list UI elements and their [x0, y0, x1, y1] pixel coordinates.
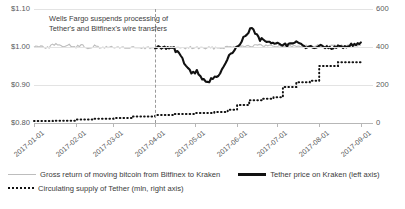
x-axis-tick-8 — [361, 123, 362, 127]
legend-item-tether-price: Tether price on Kraken (left axis) — [238, 170, 379, 179]
y-axis-left-tick-3: $1.10 — [0, 5, 30, 13]
x-axis-label-1: 2017-02-01 — [54, 130, 86, 159]
line-swatch-icon — [8, 174, 36, 175]
y-axis-right-tick-0: 0 — [376, 119, 400, 127]
x-axis-tick-0 — [34, 123, 35, 127]
y-axis-right-tick-2: 400 — [376, 43, 400, 51]
x-axis-label-8: 2017-09-01 — [339, 130, 371, 159]
y-axis-left-tick-1: $0.90 — [0, 81, 30, 89]
gridline-110 — [34, 9, 373, 10]
annotation-line-1: Wells Fargo suspends processing of — [49, 14, 153, 24]
x-axis-tick-6 — [277, 123, 278, 127]
x-axis-line — [34, 123, 373, 124]
x-axis-label-4: 2017-05-01 — [173, 130, 205, 159]
legend-label-tether-price: Tether price on Kraken (left axis) — [270, 170, 379, 179]
chart-legend: Gross return of moving bitcoin from Bitf… — [8, 167, 402, 195]
x-axis-tick-5 — [237, 123, 238, 127]
gridline-100 — [34, 47, 373, 48]
legend-item-tether-supply: Circulating supply of Tether (mln, right… — [8, 184, 183, 193]
x-axis-label-0: 2017-01-01 — [12, 130, 44, 159]
legend-item-gross-return: Gross return of moving bitcoin from Bitf… — [8, 170, 220, 179]
x-axis-tick-7 — [319, 123, 320, 127]
x-axis-tick-2 — [113, 123, 114, 127]
gridline-090 — [34, 85, 373, 86]
x-axis-label-7: 2017-08-01 — [297, 130, 329, 159]
x-axis-label-3: 2017-04-01 — [133, 130, 165, 159]
x-axis-tick-3 — [155, 123, 156, 127]
x-axis-tick-1 — [76, 123, 77, 127]
legend-row-2: Circulating supply of Tether (mln, right… — [8, 181, 402, 195]
tether-price-chart: Wells Fargo suspends processing of Tethe… — [0, 0, 405, 209]
x-axis-label-6: 2017-07-01 — [255, 130, 287, 159]
cut-off-text-fragment — [6, 200, 396, 207]
y-axis-right-tick-1: 200 — [376, 81, 400, 89]
annotation-line-2: Tether's and Bitfinex's wire transfers — [49, 24, 153, 34]
y-axis-right-tick-3: 600 — [376, 5, 400, 13]
dotted-line-swatch-icon — [8, 187, 34, 189]
event-annotation: Wells Fargo suspends processing of Tethe… — [49, 14, 153, 33]
x-axis-label-5: 2017-06-01 — [215, 130, 247, 159]
series-tether-price — [155, 28, 361, 82]
line-swatch-icon — [238, 173, 266, 176]
y-axis-left-tick-0: $0.80 — [0, 119, 30, 127]
legend-label-gross-return: Gross return of moving bitcoin from Bitf… — [40, 170, 220, 179]
legend-row-1: Gross return of moving bitcoin from Bitf… — [8, 167, 402, 181]
x-axis-label-2: 2017-03-01 — [91, 130, 123, 159]
legend-label-tether-supply: Circulating supply of Tether (mln, right… — [38, 184, 183, 193]
x-axis-tick-4 — [195, 123, 196, 127]
y-axis-left-tick-2: $1.00 — [0, 43, 30, 51]
